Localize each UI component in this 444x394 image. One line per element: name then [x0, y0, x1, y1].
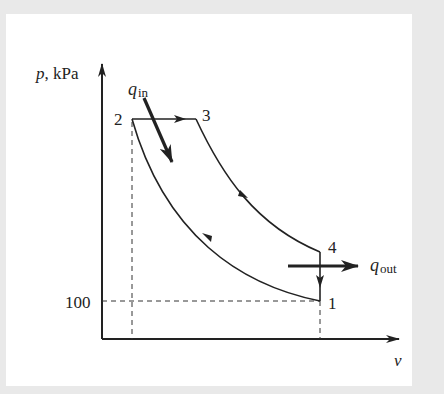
state-1-label: 1: [328, 294, 337, 313]
y-tick-100: 100: [65, 293, 91, 312]
otto-cycle-pv-diagram: p, kPa v 100 2 3 4 1 qin qout: [0, 0, 444, 394]
y-axis-label: p, kPa: [35, 64, 79, 83]
x-axis-label: v: [394, 351, 402, 370]
state-4-label: 4: [328, 238, 337, 257]
state-3-label: 3: [202, 106, 211, 125]
state-2-label: 2: [114, 110, 123, 129]
